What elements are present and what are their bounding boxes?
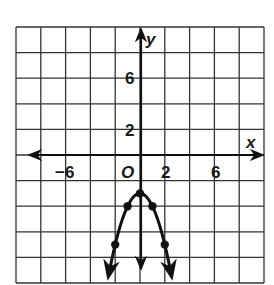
y-tick-label-2: 2 bbox=[125, 121, 134, 140]
coordinate-plane: y x O −6 2 6 6 2 bbox=[0, 0, 274, 285]
data-point bbox=[111, 240, 119, 248]
y-axis-label: y bbox=[145, 30, 157, 49]
y-tick-label-6: 6 bbox=[125, 69, 134, 88]
data-point bbox=[161, 240, 169, 248]
x-tick-label-2: 2 bbox=[161, 163, 170, 182]
x-tick-label-neg6: −6 bbox=[55, 163, 74, 182]
origin-label: O bbox=[121, 163, 134, 182]
x-axis-label: x bbox=[245, 133, 257, 152]
data-point bbox=[148, 202, 156, 210]
data-point bbox=[123, 202, 131, 210]
x-tick-label-6: 6 bbox=[211, 163, 220, 182]
data-point bbox=[136, 189, 144, 197]
